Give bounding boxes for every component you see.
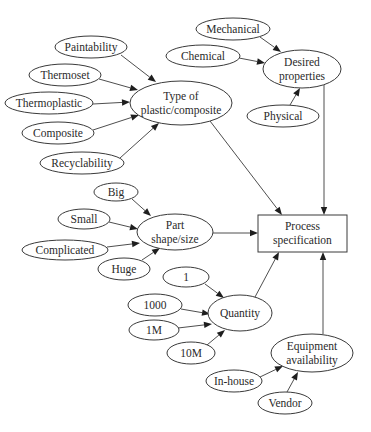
node-mechanical: Mechanical <box>196 18 270 40</box>
node-thermoplastic: Thermoplastic <box>5 92 93 114</box>
node-label: Chemical <box>181 50 225 62</box>
node-paintability: Paintability <box>55 36 127 58</box>
arrowhead-icon <box>129 85 138 91</box>
edge-q1m-to-quantity <box>178 322 212 328</box>
edge-q1-to-quantity <box>205 284 224 298</box>
edge-line <box>107 244 132 247</box>
edge-line <box>142 252 153 260</box>
node-label: Process <box>285 220 321 232</box>
edge-line <box>290 95 296 105</box>
node-label: availability <box>286 354 338 367</box>
arrowhead-icon <box>130 114 139 120</box>
node-label: 1 <box>183 271 189 283</box>
node-q1m: 1M <box>129 320 179 340</box>
node-label: Composite <box>33 127 83 140</box>
arrowhead-icon <box>293 88 300 97</box>
edge-line <box>99 79 130 88</box>
node-label: Physical <box>264 110 303 123</box>
arrowhead-icon <box>272 252 279 261</box>
node-q10m: 10M <box>167 342 215 364</box>
node-label: shape/size <box>151 233 198 246</box>
edge-complicated-to-part <box>107 241 140 247</box>
arrowhead-icon <box>321 207 327 215</box>
node-label: Vendor <box>268 397 301 409</box>
arrowhead-icon <box>129 224 138 230</box>
node-label: In-house <box>214 375 254 387</box>
edge-line <box>205 284 218 293</box>
node-label: Desired <box>284 56 320 68</box>
arrowhead-icon <box>204 322 212 328</box>
node-quantity: Quantity <box>208 295 272 331</box>
node-equipment: Equipmentavailability <box>271 334 353 372</box>
nodes-layer: PaintabilityThermosetThermoplasticCompos… <box>5 18 353 414</box>
edge-q10m-to-quantity <box>207 330 225 345</box>
edge-line <box>287 379 294 392</box>
node-label: properties <box>279 70 326 83</box>
node-label: Recyclability <box>51 157 113 170</box>
node-recyclability: Recyclability <box>40 152 124 174</box>
edge-huge-to-part <box>142 248 160 260</box>
edge-chemical-to-desired <box>239 58 265 65</box>
node-label: 1M <box>146 324 162 336</box>
arrowhead-icon <box>152 248 160 255</box>
edge-thermoplastic-to-type <box>93 99 130 105</box>
arrowhead-icon <box>216 291 224 298</box>
edge-paintability-to-type <box>121 55 156 82</box>
node-big: Big <box>94 183 138 201</box>
node-label: Part <box>166 219 185 231</box>
process-specification-diagram: PaintabilityThermosetThermoplasticCompos… <box>0 0 371 432</box>
node-label: Quantity <box>220 307 260 320</box>
arrowhead-icon <box>122 99 130 105</box>
arrowhead-icon <box>273 45 281 52</box>
node-physical: Physical <box>247 105 319 127</box>
arrowhead-icon <box>250 230 258 236</box>
node-type: Type ofplastic/composite <box>130 81 232 125</box>
node-label: specification <box>273 234 332 247</box>
arrowhead-icon <box>291 372 298 381</box>
edge-equipment-to-process <box>320 252 326 334</box>
edge-mechanical-to-desired <box>260 37 281 52</box>
node-process: Processspecification <box>258 215 347 252</box>
arrowhead-icon <box>148 75 156 82</box>
edge-composite-to-type <box>93 114 139 130</box>
edge-q1000-to-quantity <box>181 309 210 316</box>
node-vendor: Vendor <box>258 392 312 414</box>
arrowhead-icon <box>217 330 225 338</box>
node-label: Equipment <box>287 340 338 353</box>
node-inhouse: In-house <box>206 370 262 392</box>
node-desired: Desiredproperties <box>263 50 341 88</box>
edge-inhouse-to-equipment <box>260 366 283 377</box>
node-part: Partshape/size <box>137 214 213 250</box>
edge-big-to-part <box>132 199 151 216</box>
edge-line <box>120 128 153 158</box>
edge-thermoset-to-type <box>99 79 138 91</box>
node-chemical: Chemical <box>166 45 240 67</box>
edge-line <box>181 309 202 313</box>
edge-physical-to-desired <box>290 88 300 105</box>
node-label: Type of <box>163 90 198 103</box>
edge-line <box>260 369 276 377</box>
node-complicated: Complicated <box>22 240 108 260</box>
node-label: 10M <box>180 347 202 359</box>
arrowhead-icon <box>132 241 140 247</box>
edge-line <box>121 55 150 77</box>
node-label: Thermoset <box>40 69 90 81</box>
node-thermoset: Thermoset <box>29 64 101 86</box>
edge-line <box>207 335 219 345</box>
edge-type-to-process <box>210 121 282 215</box>
edge-line <box>93 117 131 130</box>
edge-quantity-to-process <box>255 252 279 297</box>
arrowhead-icon <box>274 366 283 372</box>
arrowhead-icon <box>257 58 265 64</box>
edge-line <box>239 58 257 61</box>
node-label: Big <box>108 186 125 199</box>
node-label: Small <box>71 213 98 225</box>
edge-line <box>255 259 275 297</box>
node-label: Huge <box>112 263 137 276</box>
edge-line <box>93 102 122 104</box>
node-label: Thermoplastic <box>16 97 82 110</box>
edge-part-to-process <box>213 230 258 236</box>
node-small: Small <box>58 209 110 229</box>
edge-line <box>132 199 145 211</box>
arrowhead-icon <box>320 252 326 260</box>
